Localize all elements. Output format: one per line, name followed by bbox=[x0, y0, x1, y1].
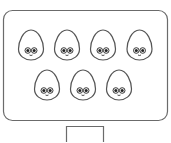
pupil bbox=[69, 49, 72, 52]
pupil bbox=[85, 89, 88, 92]
pupil bbox=[135, 49, 138, 52]
pupil bbox=[42, 89, 45, 92]
pupil bbox=[49, 89, 52, 92]
pupil bbox=[141, 49, 144, 52]
pupil bbox=[114, 89, 117, 92]
egg-tray-illustration bbox=[0, 0, 171, 142]
pupil bbox=[78, 89, 81, 92]
pupil bbox=[62, 49, 65, 52]
pupil bbox=[121, 89, 124, 92]
pupil bbox=[105, 49, 108, 52]
pupil bbox=[98, 49, 101, 52]
tray-container bbox=[4, 11, 168, 121]
small-box bbox=[67, 127, 104, 143]
pupil bbox=[26, 49, 29, 52]
pupil bbox=[33, 49, 36, 52]
